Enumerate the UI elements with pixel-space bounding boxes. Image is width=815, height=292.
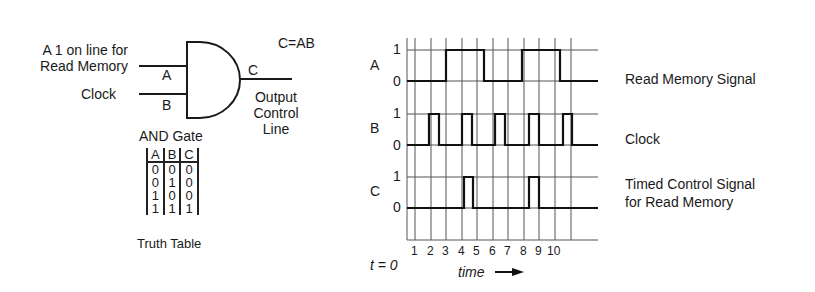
signal-c-name: C bbox=[370, 183, 380, 199]
time-arrow-icon bbox=[495, 268, 524, 276]
signal-c-description: Timed Control Signal for Read Memory bbox=[625, 176, 755, 210]
signal-c-low: 0 bbox=[393, 199, 401, 215]
signal-b-waveform bbox=[407, 114, 598, 145]
signal-a-description: Read Memory Signal bbox=[625, 71, 756, 87]
signal-b-description: Clock bbox=[625, 131, 660, 147]
output-description: Output Control Line bbox=[246, 89, 306, 137]
tick-10: 10 bbox=[547, 243, 560, 259]
signal-c-description-line-2: for Read Memory bbox=[625, 194, 755, 210]
t0-label: t = 0 bbox=[370, 257, 398, 273]
truth-table-row: 1 1 1 bbox=[147, 202, 198, 215]
signal-a-waveform bbox=[407, 50, 598, 81]
tick-3: 3 bbox=[442, 243, 449, 259]
signal-a-high: 1 bbox=[393, 41, 401, 57]
input-a-line-1: A 1 on line for bbox=[10, 42, 128, 58]
header-a: A bbox=[147, 148, 164, 162]
tick-1: 1 bbox=[411, 243, 418, 259]
truth-table-row: 0 0 0 bbox=[147, 162, 198, 176]
timing-grid bbox=[407, 38, 598, 240]
pin-a-label: A bbox=[162, 67, 171, 83]
cell: 1 bbox=[147, 202, 164, 215]
cell: 1 bbox=[164, 202, 181, 215]
signal-c-waveform bbox=[407, 177, 598, 208]
tick-5: 5 bbox=[473, 243, 480, 259]
time-axis-label: time bbox=[458, 264, 484, 280]
truth-table-header: A B C bbox=[147, 148, 198, 162]
cell: 0 bbox=[164, 162, 181, 176]
signal-c-description-line-1: Timed Control Signal bbox=[625, 176, 755, 192]
input-a-description: A 1 on line for Read Memory bbox=[10, 42, 128, 74]
signal-a-name: A bbox=[370, 57, 379, 73]
and-gate-caption: AND Gate bbox=[139, 128, 203, 144]
pin-b-label: B bbox=[162, 97, 171, 113]
cell: 1 bbox=[180, 202, 197, 215]
pin-c-label: C bbox=[248, 62, 258, 78]
signal-b-high: 1 bbox=[393, 105, 401, 121]
output-line-3: Line bbox=[246, 121, 306, 137]
signal-b-low: 0 bbox=[393, 137, 401, 153]
signal-b-name: B bbox=[370, 120, 379, 136]
tick-8: 8 bbox=[520, 243, 527, 259]
input-b-description: Clock bbox=[10, 86, 116, 102]
cell: 0 bbox=[180, 162, 197, 176]
truth-table: A B C 0 0 0 0 1 0 1 0 0 1 1 1 bbox=[146, 148, 199, 215]
output-line-1: Output bbox=[246, 89, 306, 105]
truth-table-caption: Truth Table bbox=[137, 236, 201, 252]
gate-equation: C=AB bbox=[278, 35, 315, 51]
header-b: B bbox=[164, 148, 181, 162]
tick-7: 7 bbox=[504, 243, 511, 259]
cell: 0 bbox=[147, 162, 164, 176]
tick-9: 9 bbox=[535, 243, 542, 259]
tick-4: 4 bbox=[458, 243, 465, 259]
tick-6: 6 bbox=[489, 243, 496, 259]
signal-c-high: 1 bbox=[393, 168, 401, 184]
input-a-line-2: Read Memory bbox=[10, 58, 128, 74]
header-c: C bbox=[180, 148, 197, 162]
tick-2: 2 bbox=[427, 243, 434, 259]
signal-a-low: 0 bbox=[393, 73, 401, 89]
output-line-2: Control bbox=[246, 105, 306, 121]
